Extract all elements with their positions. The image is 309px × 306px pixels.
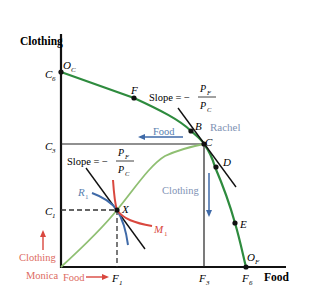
svg-text:3: 3 xyxy=(51,147,56,155)
point-x xyxy=(114,207,119,212)
label-e: E xyxy=(239,218,247,230)
monica-clothing-label: Clothing xyxy=(19,252,57,263)
svg-text:Slope = −: Slope = − xyxy=(67,156,108,167)
point-e xyxy=(232,220,237,225)
monica-clothing-arrow xyxy=(40,230,46,250)
svg-text:1: 1 xyxy=(52,212,56,220)
svg-text:C: C xyxy=(71,66,76,74)
label-c: C xyxy=(205,136,213,148)
label-d: D xyxy=(222,156,231,168)
label-x: X xyxy=(121,203,130,215)
rachel-label: Rachel xyxy=(210,121,241,133)
point-f xyxy=(131,95,136,100)
svg-text:P: P xyxy=(199,83,206,94)
origin-clothing-label: O C xyxy=(63,59,76,74)
rachel-clothing-arrow xyxy=(206,173,212,217)
svg-text:6: 6 xyxy=(249,279,253,287)
tick-f1: F 1 xyxy=(111,272,123,287)
tick-c6: C 6 xyxy=(45,68,56,83)
tick-c3: C 3 xyxy=(45,140,56,155)
label-r1: R 1 xyxy=(77,186,89,201)
tick-f3: F 3 xyxy=(198,272,210,287)
svg-text:C: C xyxy=(125,170,130,177)
svg-text:1: 1 xyxy=(85,193,89,201)
x-axis-label: Food xyxy=(264,271,290,283)
label-b: B xyxy=(195,120,202,132)
svg-text:P: P xyxy=(117,164,124,175)
label-m1: M 1 xyxy=(153,223,168,238)
svg-text:P: P xyxy=(117,147,124,158)
slope-label-bottom: Slope = − P F P C xyxy=(67,147,134,177)
svg-text:F: F xyxy=(198,272,206,284)
svg-text:6: 6 xyxy=(52,75,56,83)
svg-text:M: M xyxy=(153,223,164,235)
rachel-clothing-label: Clothing xyxy=(162,185,200,196)
svg-text:1: 1 xyxy=(164,230,168,238)
rachel-food-label: Food xyxy=(153,126,175,137)
tick-f6: F 6 xyxy=(241,272,253,287)
svg-text:Slope = −: Slope = − xyxy=(149,92,190,103)
monica-food-arrow xyxy=(86,274,109,280)
svg-text:O: O xyxy=(247,251,255,263)
svg-text:F: F xyxy=(254,258,260,266)
svg-text:F: F xyxy=(206,89,212,96)
svg-text:R: R xyxy=(77,186,85,198)
svg-text:3: 3 xyxy=(205,279,210,287)
point-b xyxy=(188,128,193,133)
origin-food-label: O F xyxy=(247,251,260,266)
svg-text:F: F xyxy=(241,272,249,284)
y-axis-label: Clothing xyxy=(20,35,63,48)
svg-text:C: C xyxy=(207,106,212,113)
monica-label: Monica xyxy=(26,270,58,281)
monica-food-label: Food xyxy=(63,272,85,283)
monica-indifference-curve-m1 xyxy=(113,180,152,226)
point-d xyxy=(213,164,218,169)
svg-text:1: 1 xyxy=(119,279,123,287)
svg-text:O: O xyxy=(63,59,71,71)
tick-c1: C 1 xyxy=(45,205,56,220)
slope-label-top: Slope = − P F P C xyxy=(149,83,216,113)
svg-text:P: P xyxy=(199,100,206,111)
label-f: F xyxy=(130,84,138,96)
point-of xyxy=(243,264,248,269)
production-possibility-diagram: Clothing Food F B C D E X O C O F C 6 xyxy=(0,0,309,306)
svg-text:F: F xyxy=(111,272,119,284)
svg-text:F: F xyxy=(124,153,130,160)
